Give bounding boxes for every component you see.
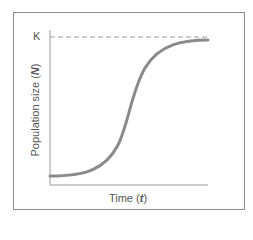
x-axis-label: Time (t): [109, 192, 147, 204]
k-label: K: [33, 30, 40, 42]
y-axis-label: Population size (N): [29, 64, 41, 157]
logistic-curve: [50, 40, 208, 176]
